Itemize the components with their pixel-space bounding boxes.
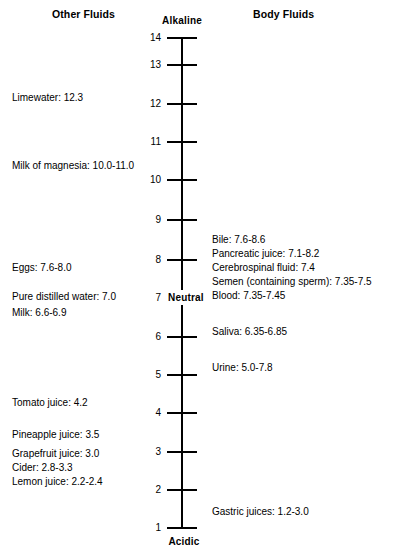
body-fluid-entry: Pancreatic juice: 7.1-8.2 — [212, 248, 319, 259]
axis-tick-label: 14 — [141, 33, 161, 43]
other-fluid-entry: Grapefruit juice: 3.0 — [12, 448, 99, 459]
other-fluid-entry: Eggs: 7.6-8.0 — [12, 262, 71, 273]
other-fluid-entry: Milk: 6.6-6.9 — [12, 307, 66, 318]
other-fluid-entry: Lemon juice: 2.2-2.4 — [12, 476, 103, 487]
axis-tick-label: 3 — [141, 447, 161, 457]
other-fluid-entry: Pure distilled water: 7.0 — [12, 291, 116, 302]
axis-tick-label: 11 — [141, 137, 161, 147]
axis-neutral-value: 7 — [141, 292, 161, 303]
axis-tick-label: 12 — [141, 99, 161, 109]
other-fluid-entry: Pineapple juice: 3.5 — [12, 429, 99, 440]
axis-tick-mark — [167, 219, 197, 221]
axis-tick-label: 8 — [141, 255, 161, 265]
axis-tick-mark — [167, 141, 197, 143]
axis-tick-label: 13 — [141, 60, 161, 70]
body-fluid-entry: Saliva: 6.35-6.85 — [212, 326, 287, 337]
other-fluid-entry: Milk of magnesia: 10.0-11.0 — [12, 160, 134, 171]
axis-tick-label: 4 — [141, 408, 161, 418]
other-fluid-entry: Limewater: 12.3 — [12, 92, 83, 103]
other-fluid-entry: Cider: 2.8-3.3 — [12, 462, 73, 473]
axis-tick-mark — [167, 489, 197, 491]
axis-tick-mark — [167, 527, 197, 529]
axis-tick-label: 1 — [141, 523, 161, 533]
axis-tick-label: 9 — [141, 215, 161, 225]
axis-tick-label: 5 — [141, 370, 161, 380]
axis-tick-mark — [167, 374, 197, 376]
body-fluid-entry: Bile: 7.6-8.6 — [212, 234, 265, 245]
body-fluid-entry: Urine: 5.0-7.8 — [212, 362, 273, 373]
axis-tick-mark — [167, 451, 197, 453]
axis-tick-mark — [167, 259, 197, 261]
axis-tick-mark — [167, 412, 197, 414]
body-fluid-entry: Gastric juices: 1.2-3.0 — [212, 506, 309, 517]
axis-tick-label: 10 — [141, 175, 161, 185]
axis-tick-label: 6 — [141, 332, 161, 342]
axis-tick-mark — [167, 103, 197, 105]
axis-tick-label: 2 — [141, 485, 161, 495]
body-fluid-entry: Semen (containing sperm): 7.35-7.5 — [212, 276, 372, 287]
body-fluid-entry: Blood: 7.35-7.45 — [212, 290, 285, 301]
other-fluid-entry: Tomato juice: 4.2 — [12, 397, 88, 408]
axis-tick-mark — [167, 37, 197, 39]
axis-tick-mark — [167, 179, 197, 181]
axis-neutral-label: Neutral — [168, 292, 204, 303]
body-fluid-entry: Cerebrospinal fluid: 7.4 — [212, 262, 315, 273]
axis-tick-mark — [167, 336, 197, 338]
axis-tick-mark — [167, 64, 197, 66]
axis-neutral-marker: 7Neutral — [141, 292, 204, 303]
ph-scale-diagram: Other Fluids Body Fluids Alkaline Acidic… — [0, 0, 395, 553]
axis-line-alkaline-segment — [181, 38, 183, 290]
axis-line-acidic-segment — [181, 305, 183, 529]
